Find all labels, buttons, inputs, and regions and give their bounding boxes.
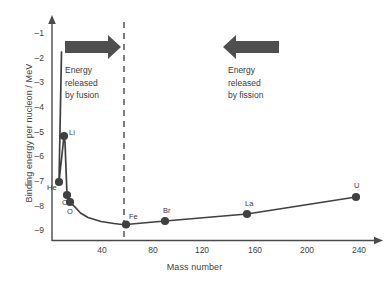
x-tick-label: 240 [345, 245, 373, 255]
point-label-br: Br [163, 206, 171, 215]
x-tick-label: 200 [293, 245, 321, 255]
annotation-fission-line-2: released [228, 77, 263, 90]
y-axis [48, 15, 56, 241]
binding-energy-curve [59, 52, 356, 225]
x-tick-label: 40 [88, 245, 116, 255]
point-label-o: O [67, 207, 73, 216]
x-tick-label: 120 [188, 245, 216, 255]
point-label-li: Li [69, 128, 75, 137]
marker-la [243, 210, 251, 218]
marker-u [352, 193, 360, 201]
point-label-he: He [47, 183, 57, 192]
annotation-fusion-line-1: Energy [65, 64, 99, 77]
x-tick-label: 80 [139, 245, 167, 255]
point-label-la: La [245, 199, 253, 208]
marker-br [161, 217, 169, 225]
annotation-fusion-line-2: released [65, 77, 99, 90]
x-axis [52, 237, 383, 245]
annotation-fusion-line-3: by fusion [65, 89, 99, 102]
point-label-c: C [62, 198, 67, 207]
x-tick-label: 160 [241, 245, 269, 255]
annotation-fission: Energy released by fission [228, 64, 263, 102]
annotation-fission-line-3: by fission [228, 89, 263, 102]
y-axis-title: Binding energy per nucleon / MeV [24, 18, 34, 248]
fusion-arrow-icon [65, 35, 121, 59]
data-point-markers [55, 132, 360, 229]
marker-fe [122, 220, 130, 228]
point-label-u: U [354, 181, 359, 190]
annotation-fusion: Energy released by fusion [65, 64, 99, 102]
binding-energy-chart: –1 –2 –3 –4 –5 –6 –7 –8 –9 40 80 120 160… [0, 0, 389, 282]
point-label-fe: Fe [129, 212, 138, 221]
fission-arrow-icon [223, 35, 279, 59]
marker-li [60, 132, 68, 140]
x-axis-title: Mass number [0, 262, 389, 272]
annotation-fission-line-1: Energy [228, 64, 263, 77]
plot-area [0, 0, 389, 282]
